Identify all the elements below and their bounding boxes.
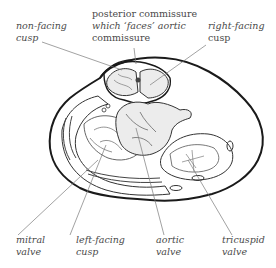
label-right-facing-cusp: right-facing cusp [208, 20, 265, 44]
label-mitral-valve: mitral valve [16, 234, 45, 258]
label-left-facing-cusp: left-facing cusp [76, 234, 125, 258]
label-non-facing-cusp: non-facing cusp [16, 20, 67, 44]
label-aortic-valve: aortic valve [156, 234, 184, 258]
label-posterior-commissure: posterior commissure which ‘faces’ aorti… [92, 8, 197, 44]
label-tricuspid-valve: tricuspid valve [222, 234, 265, 258]
